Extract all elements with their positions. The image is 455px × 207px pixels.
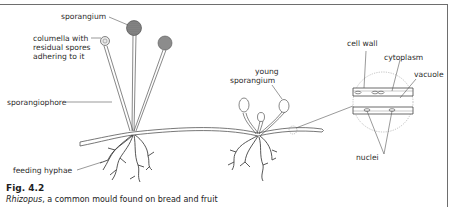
label-columella-1: columella with xyxy=(33,34,88,43)
label-columella-2: residual spores xyxy=(33,43,91,52)
label-sporangium: sporangium xyxy=(61,12,106,21)
label-cell-wall: cell wall xyxy=(347,39,378,48)
stolon xyxy=(80,128,324,146)
magnified-hypha-section xyxy=(353,72,413,132)
figure-caption: Rhizopus, a common mould found on bread … xyxy=(6,195,218,204)
figure-number: Fig. 4.2 xyxy=(6,183,44,193)
columella-icon xyxy=(101,37,110,46)
label-feeding-hyphae: feeding hyphae xyxy=(13,166,72,175)
feeding-hyphae-2 xyxy=(228,136,277,181)
young-sporangium-icon xyxy=(239,98,249,112)
label-young-sporangium-1: young xyxy=(255,67,279,76)
rhizopus-diagram xyxy=(0,0,455,207)
feeding-hyphae-1 xyxy=(100,135,154,182)
label-vacuole: vacuole xyxy=(414,70,444,79)
sporangium-icon xyxy=(127,21,142,36)
label-cytoplasm: cytoplasm xyxy=(384,53,423,62)
mature-sporangiophores xyxy=(104,35,166,131)
label-sporangiophore: sporangiophore xyxy=(7,98,67,107)
sporangium-2-icon xyxy=(158,36,172,50)
caption-description: , a common mould found on bread and frui… xyxy=(42,195,217,204)
label-nuclei: nuclei xyxy=(356,153,379,162)
label-young-sporangium-2: sporangium xyxy=(230,76,275,85)
caption-genus: Rhizopus xyxy=(6,195,42,204)
label-columella-3: adhering to it xyxy=(33,52,84,61)
